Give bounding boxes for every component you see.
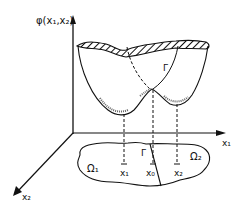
x1-axis-label: x₁: [222, 138, 231, 148]
potential-surface: [77, 40, 209, 115]
x2-axis: [13, 133, 73, 196]
domain-gamma-label: Γ: [141, 148, 146, 158]
point-x2-label: x₂: [174, 168, 183, 178]
x2-axis-label: x₂: [22, 192, 31, 202]
point-x0-label: x₀: [146, 168, 155, 178]
surface-gamma-label: Γ: [163, 63, 168, 73]
phi-axis-label: φ(x₁,x₂): [36, 15, 74, 26]
omega1-label: Ω₁: [87, 163, 99, 174]
point-x1-label: x₁: [120, 168, 129, 178]
x1-axis: [73, 130, 226, 136]
diagram: φ(x₁,x₂) x₁ x₂ Γ Γ Ω₁ Ω₂: [0, 0, 241, 207]
phi-axis: [70, 15, 76, 134]
arrow-right-icon: [216, 130, 226, 136]
omega2-label: Ω₂: [190, 151, 202, 162]
